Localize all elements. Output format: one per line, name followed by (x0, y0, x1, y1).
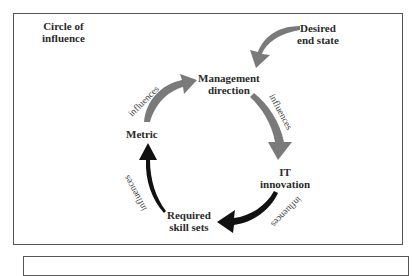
node-label: Required (167, 209, 211, 221)
node-label: Management (198, 72, 260, 84)
node-required-skill-sets: Required skill sets (167, 209, 211, 233)
edge-label-skills-metric: influences (121, 173, 148, 212)
node-label: IT (260, 166, 310, 178)
node-desired-end-state: Desired end state (297, 22, 339, 46)
node-label: innovation (260, 178, 310, 190)
node-metric: Metric (126, 128, 158, 140)
node-label: Metric (126, 128, 158, 140)
node-label: Desired (297, 22, 339, 34)
node-label: skill sets (167, 221, 211, 233)
title-line: influence (42, 32, 85, 44)
node-label: end state (297, 34, 339, 46)
arrow-it-to-skills (217, 191, 278, 233)
node-label: direction (198, 84, 260, 96)
arrow-desired-to-management (250, 26, 300, 68)
title-line: Circle of (42, 20, 85, 32)
node-it-innovation: IT innovation (260, 166, 310, 190)
node-management-direction: Management direction (198, 72, 260, 96)
diagram-title: Circle of influence (42, 20, 85, 44)
